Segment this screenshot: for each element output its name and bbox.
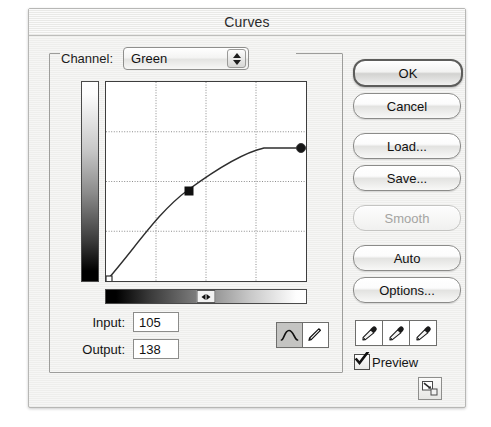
- eyedropper-icon: [359, 325, 379, 342]
- output-field[interactable]: 138: [133, 339, 179, 359]
- set-black-point-eyedropper[interactable]: [356, 321, 382, 345]
- smooth-button: Smooth: [353, 205, 461, 231]
- preview-label: Preview: [372, 355, 418, 370]
- preview-checkbox[interactable]: [354, 354, 370, 370]
- eyedropper-group: [355, 320, 437, 346]
- pencil-tool-button[interactable]: [302, 323, 328, 347]
- eyedropper-icon: [386, 325, 406, 342]
- curve-tool-button[interactable]: [277, 323, 302, 347]
- chevron-up-icon: [233, 53, 241, 58]
- output-row: Output: 138: [63, 339, 179, 359]
- chevron-down-icon: [233, 60, 241, 65]
- eyedropper-icon: [413, 325, 433, 342]
- curve-tool-icon: [280, 327, 299, 343]
- output-label: Output:: [63, 342, 133, 357]
- curve-point-black: [106, 276, 112, 281]
- channel-row: Channel: Green: [61, 47, 249, 70]
- channel-selected-value: Green: [124, 51, 167, 66]
- curve-graph-svg: [106, 82, 306, 281]
- ok-button[interactable]: OK: [353, 59, 463, 87]
- load-button[interactable]: Load...: [353, 133, 461, 159]
- channel-label: Channel:: [61, 51, 113, 66]
- arrow-right-icon: [207, 294, 211, 300]
- options-button[interactable]: Options...: [353, 277, 461, 303]
- save-button[interactable]: Save...: [353, 165, 461, 191]
- cancel-button[interactable]: Cancel: [353, 93, 461, 119]
- graph-gridlines: [106, 82, 306, 281]
- input-field[interactable]: 105: [133, 312, 179, 332]
- output-gradient-bar: [81, 81, 99, 282]
- grow-box-glyph: [422, 381, 438, 396]
- input-label: Input:: [63, 315, 133, 330]
- arrow-left-icon: [202, 294, 206, 300]
- input-gradient-bar[interactable]: [105, 289, 307, 304]
- channel-dropdown[interactable]: Green: [123, 47, 249, 70]
- dialog-titlebar: Curves: [29, 9, 465, 36]
- resize-grow-box-icon[interactable]: [418, 377, 442, 400]
- pencil-tool-icon: [306, 327, 325, 343]
- curve-graph[interactable]: [105, 81, 307, 282]
- preview-row[interactable]: Preview: [354, 354, 418, 370]
- curve-point-selected: [185, 187, 193, 195]
- auto-button[interactable]: Auto: [353, 245, 461, 271]
- curve-tool-group: [276, 322, 329, 348]
- set-gray-point-eyedropper[interactable]: [382, 321, 409, 345]
- curve-point-white: [297, 144, 306, 153]
- updown-arrows-icon[interactable]: [227, 49, 246, 68]
- left-right-arrows-icon[interactable]: [197, 290, 216, 303]
- checkmark-icon: [354, 352, 370, 368]
- dialog-title: Curves: [224, 14, 270, 30]
- screenshot-root: Curves Channel: Green: [0, 0, 491, 427]
- set-white-point-eyedropper[interactable]: [409, 321, 436, 345]
- curves-dialog: Curves Channel: Green: [28, 8, 466, 408]
- input-row: Input: 105: [63, 312, 179, 332]
